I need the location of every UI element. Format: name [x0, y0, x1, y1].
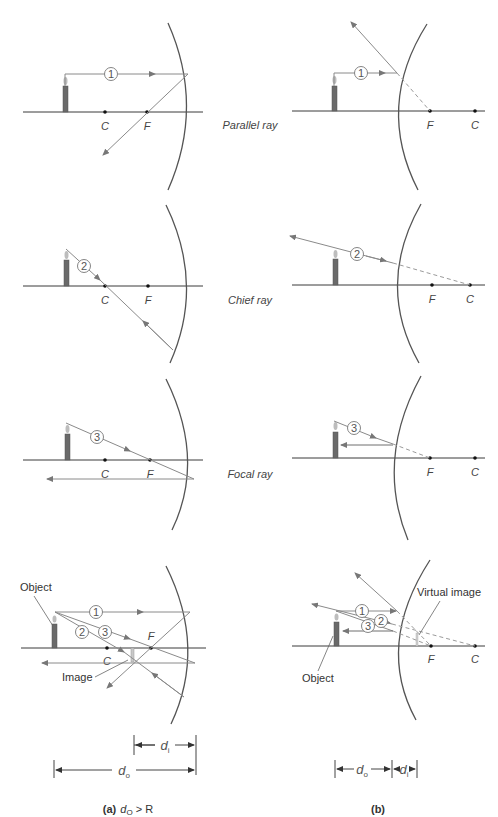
- mirror-ray-diagram: C F 1 Parallel ray F C 1 C F: [0, 0, 498, 817]
- svg-text:C: C: [471, 119, 479, 131]
- svg-text:3: 3: [351, 422, 357, 434]
- row-combined-concave: C F 1 2 3 Object Image: [20, 566, 206, 724]
- candle-object-icon: [63, 86, 68, 112]
- svg-text:C: C: [101, 294, 109, 306]
- virtual-image: [416, 633, 418, 646]
- label-c: C: [101, 120, 109, 132]
- callout-image: Image: [62, 671, 93, 683]
- callout-virtual-image: Virtual image: [417, 586, 481, 598]
- svg-text:3: 3: [94, 431, 100, 443]
- dimension-lines-b: do di: [335, 760, 417, 779]
- svg-text:2: 2: [79, 626, 85, 638]
- callout-object: Object: [20, 581, 52, 593]
- svg-text:F: F: [429, 293, 437, 305]
- row-chief-concave: C F 2: [23, 205, 203, 363]
- point-c: [473, 109, 477, 113]
- row-focal-convex: F C 3: [292, 376, 485, 540]
- label-di-b: di: [399, 762, 408, 779]
- svg-text:F: F: [427, 119, 435, 131]
- svg-text:C: C: [101, 468, 109, 480]
- svg-text:F: F: [148, 630, 156, 642]
- svg-text:C: C: [471, 653, 479, 665]
- svg-text:C: C: [466, 293, 474, 305]
- svg-text:3: 3: [365, 620, 371, 632]
- svg-text:F: F: [427, 466, 435, 478]
- row-combined-convex: F C 1 2 3 Virtual image Object: [292, 560, 485, 720]
- real-image: [131, 648, 134, 662]
- label-di: di: [160, 738, 169, 755]
- svg-text:1: 1: [93, 606, 99, 618]
- object-candle: [334, 622, 339, 646]
- svg-text:F: F: [147, 468, 155, 480]
- svg-text:1: 1: [359, 605, 365, 617]
- row-chief-convex: F C 2: [290, 204, 485, 363]
- svg-text:1: 1: [358, 67, 364, 79]
- label-focal-ray: Focal ray: [227, 468, 274, 480]
- concave-mirror: [168, 23, 187, 190]
- svg-text:F: F: [145, 294, 153, 306]
- convex-mirror: [399, 24, 427, 190]
- row-parallel-concave: C F 1: [23, 23, 203, 190]
- label-do-b: do: [356, 762, 368, 779]
- reflected-ray-1: [103, 74, 188, 155]
- callout-object: Object: [302, 672, 334, 684]
- caption-a: (a)dO > R: [103, 803, 153, 817]
- svg-text:C: C: [471, 466, 479, 478]
- candle-object-icon: [332, 86, 337, 111]
- label-chief-ray: Chief ray: [228, 294, 274, 306]
- label-f: F: [144, 120, 152, 132]
- object-candle: [52, 624, 57, 648]
- point-c: [103, 110, 107, 114]
- row-parallel-convex: F C 1: [292, 22, 485, 190]
- label-parallel-ray: Parallel ray: [222, 119, 279, 131]
- svg-text:1: 1: [108, 68, 114, 80]
- svg-text:C: C: [103, 655, 111, 667]
- svg-text:2: 2: [354, 248, 360, 260]
- svg-text:F: F: [428, 653, 436, 665]
- label-do: do: [118, 763, 130, 780]
- dimension-lines-a: di do: [54, 735, 196, 780]
- svg-text:2: 2: [378, 615, 384, 627]
- svg-text:2: 2: [81, 260, 87, 272]
- caption-b: (b): [371, 803, 385, 815]
- row-focal-concave: C F 3: [23, 379, 203, 530]
- svg-text:3: 3: [102, 626, 108, 638]
